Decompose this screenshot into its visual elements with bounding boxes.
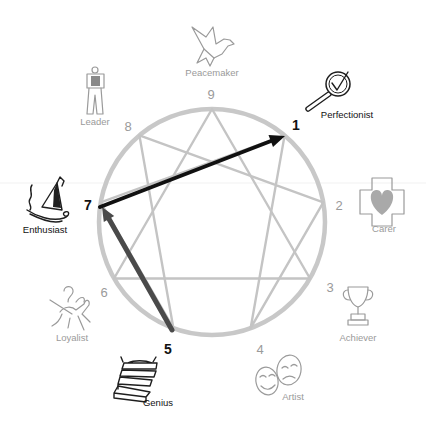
type-label: Perfectionist — [321, 109, 374, 120]
type-number: 8 — [124, 119, 131, 134]
type-number: 9 — [207, 87, 214, 102]
type-number: 4 — [256, 342, 263, 357]
enneagram-diagram: Peacemaker 9 Perfectionist 1 Carer 2 — [0, 0, 426, 431]
type-5-genius[interactable]: Genius 5 — [114, 341, 173, 408]
type-label: Loyalist — [56, 332, 89, 343]
trophy-icon — [343, 287, 372, 325]
type-number: 5 — [164, 341, 172, 357]
type-label: Genius — [143, 397, 173, 408]
heart-cross-icon — [360, 178, 404, 226]
type-label: Achiever — [340, 332, 377, 343]
type-1-perfectionist[interactable]: Perfectionist 1 — [292, 72, 373, 133]
type-number: 7 — [84, 197, 92, 213]
type-number: 1 — [292, 117, 300, 133]
type-label: Peacemaker — [185, 67, 238, 78]
type-label: Enthusiast — [23, 224, 68, 235]
type-4-artist[interactable]: Artist 4 — [253, 342, 304, 402]
type-8-leader[interactable]: Leader 8 — [80, 67, 131, 134]
enneagram-circle — [99, 109, 325, 335]
type-6-loyalist[interactable]: Loyalist 6 — [50, 285, 108, 343]
type-number: 6 — [100, 285, 107, 300]
arrow-5-to-7 — [102, 207, 172, 330]
type-label: Carer — [372, 223, 396, 234]
type-number: 2 — [335, 198, 342, 213]
type-2-carer[interactable]: Carer 2 — [335, 178, 404, 234]
magnifier-check-icon — [308, 72, 350, 109]
type-7-enthusiast[interactable]: Enthusiast 7 — [23, 177, 92, 235]
type-label: Leader — [80, 116, 110, 127]
type-label: Artist — [282, 391, 304, 402]
leader-figure-icon — [87, 67, 104, 114]
sled-icon — [27, 177, 69, 222]
type-3-achiever[interactable]: Achiever 3 — [326, 280, 376, 343]
dove-icon — [192, 27, 234, 66]
knight-icon — [50, 287, 90, 330]
type-9-peacemaker[interactable]: Peacemaker 9 — [185, 27, 238, 102]
type-number: 3 — [326, 280, 333, 295]
books-icon — [114, 357, 157, 402]
